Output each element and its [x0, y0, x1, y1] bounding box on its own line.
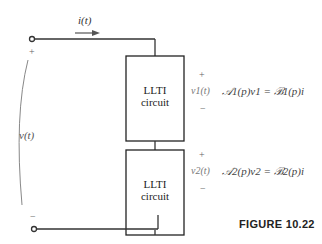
current-arrow-icon [92, 30, 100, 36]
voltage-minus: − [30, 211, 36, 222]
block-2-line1: LLTI [126, 178, 184, 190]
voltage-plus: + [29, 46, 35, 57]
current-label: i(t) [78, 14, 91, 26]
block-1-label: LLTI circuit [126, 84, 184, 108]
block-1-line1: LLTI [126, 84, 184, 96]
block-1-plus: + [199, 69, 205, 80]
block-1-voltage: v1(t) [191, 85, 210, 96]
figure-caption: FIGURE 10.22 [239, 218, 315, 230]
circuit-wires [0, 0, 322, 244]
block-1-equation: 𝒜1(p)v1 = ℬ1(p)i [222, 85, 304, 98]
block-1-minus: − [200, 103, 206, 114]
block-2-plus: + [199, 149, 205, 160]
block-2-voltage: v2(t) [191, 165, 210, 176]
block-2-label: LLTI circuit [126, 178, 184, 202]
terminal-top [30, 37, 35, 42]
block-2-line2: circuit [126, 190, 184, 202]
block-2-minus: − [200, 183, 206, 194]
terminal-bottom [32, 227, 37, 232]
block-2-equation: 𝒜2(p)v2 = ℬ2(p)i [222, 165, 304, 178]
voltage-label: v(t) [19, 129, 34, 141]
block-1-line2: circuit [126, 96, 184, 108]
